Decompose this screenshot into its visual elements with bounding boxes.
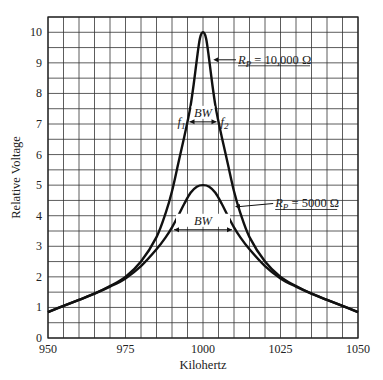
arrow-head-icon [213, 57, 218, 62]
y-tick-label: 3 [36, 239, 42, 253]
y-tick-label: 4 [36, 209, 42, 223]
bandwidth-label: BW [194, 106, 214, 120]
x-tick-label: 975 [117, 342, 135, 356]
x-tick-labels: 950975100010251050 [39, 342, 370, 356]
series-label: RP = 5000 Ω [274, 196, 339, 212]
arrow-head-icon [227, 227, 232, 232]
y-tick-label: 2 [36, 270, 42, 284]
y-tick-label: 1 [36, 300, 42, 314]
bandwidth-label: BW [194, 214, 214, 228]
y-tick-labels: 012345678910 [30, 25, 42, 345]
f1-label: f1 [178, 115, 186, 131]
x-tick-label: 1025 [269, 342, 293, 356]
y-tick-label: 8 [36, 86, 42, 100]
y-tick-label: 5 [36, 178, 42, 192]
x-tick-label: 1000 [191, 342, 215, 356]
resonance-chart: RP = 10,000 ΩRP = 5000 ΩBWf1f2BW 9509751… [0, 0, 383, 380]
y-tick-label: 0 [36, 331, 42, 345]
y-axis-label: Relative Voltage [9, 136, 23, 219]
grid-lines [48, 17, 358, 338]
x-axis-label: Kilohertz [179, 358, 227, 372]
leader-line [240, 203, 273, 206]
f2-label: f2 [221, 115, 229, 131]
y-tick-label: 9 [36, 56, 42, 70]
series-label: RP = 10,000 Ω [237, 53, 311, 69]
x-tick-label: 1050 [346, 342, 370, 356]
y-tick-label: 10 [30, 25, 42, 39]
annotations: RP = 10,000 ΩRP = 5000 ΩBWf1f2BW [174, 53, 339, 232]
arrow-head-icon [174, 227, 179, 232]
y-tick-label: 6 [36, 148, 42, 162]
y-tick-label: 7 [36, 117, 42, 131]
